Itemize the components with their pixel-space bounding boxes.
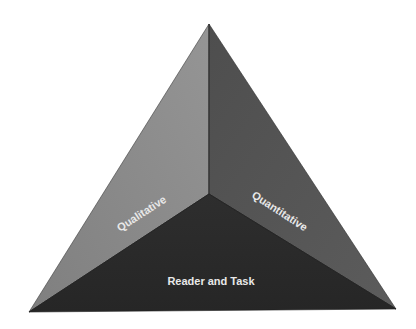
pyramid-diagram: Qualitative Quantitative Reader and Task xyxy=(0,0,416,329)
label-reader-and-task: Reader and Task xyxy=(167,275,255,287)
